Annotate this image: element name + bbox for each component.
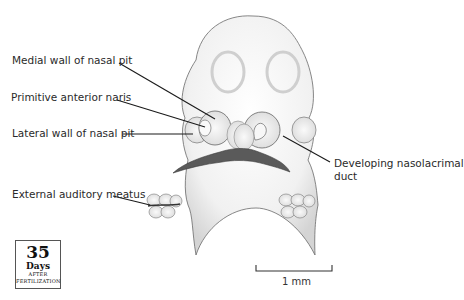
label-nasolacrimal-line2: duct — [334, 170, 357, 182]
day-unit: Days — [16, 261, 60, 271]
label-medial-wall: Medial wall of nasal pit — [12, 54, 132, 66]
day-after: AFTER — [16, 271, 60, 278]
label-nasolacrimal-line1: Developing nasolacrimal — [334, 157, 464, 169]
day-badge: 35 Days AFTER FERTILIZATION — [15, 240, 61, 289]
label-primitive-naris: Primitive anterior naris — [11, 91, 131, 103]
day-number: 35 — [16, 244, 60, 261]
label-external-meatus: External auditory meatus — [12, 188, 145, 200]
scale-bar — [256, 265, 332, 271]
scale-bar-label: 1 mm — [282, 276, 311, 287]
label-lateral-wall: Lateral wall of nasal pit — [12, 127, 134, 139]
lateral-wall-right — [292, 117, 316, 143]
day-fertilization: FERTILIZATION — [16, 278, 60, 285]
